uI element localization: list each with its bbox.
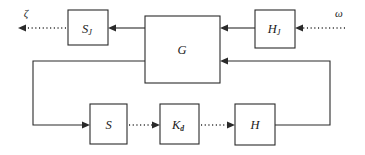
arrow-head-hj-to-g [220, 25, 228, 32]
block-diagram-svg: SJ G HJ S Kd [0, 0, 365, 155]
svg-text:S: S [105, 118, 112, 132]
block-h[interactable]: H [235, 104, 275, 145]
connection-g-to-s [33, 61, 145, 128]
block-hj[interactable]: HJ [255, 10, 295, 48]
block-diagram-canvas: SJ G HJ S Kd [0, 0, 365, 155]
svg-text:G: G [177, 43, 186, 57]
arrow-head-g-to-s [82, 122, 90, 129]
block-hj-subscript: J [277, 28, 281, 37]
connection-g-to-sj [108, 25, 145, 32]
block-s[interactable]: S [90, 104, 127, 144]
block-sj-subscript: J [88, 27, 92, 36]
connection-s-to-kd [129, 122, 160, 129]
signal-label-zeta: ζ [24, 7, 30, 20]
block-h-label: H [249, 118, 260, 132]
svg-text:H: H [249, 118, 260, 132]
arrow-head-kd-to-h [227, 122, 235, 129]
arrow-head-s-to-kd [152, 122, 160, 129]
block-g[interactable]: G [145, 16, 220, 83]
block-s-label: S [105, 118, 112, 132]
block-sj[interactable]: SJ [68, 10, 108, 45]
block-kd-subscript: d [180, 123, 184, 132]
arrow-head-h-to-g [220, 58, 228, 65]
block-g-label: G [177, 43, 186, 57]
signal-label-omega: ω [335, 7, 343, 19]
block-kd[interactable]: Kd [160, 104, 199, 144]
connection-hj-to-g [220, 25, 255, 32]
arrow-head-omega-in [295, 25, 303, 32]
connection-omega-in [295, 25, 345, 32]
connection-kd-to-h [201, 122, 235, 129]
arrow-head-g-to-sj [108, 25, 116, 32]
arrow-head-zeta [18, 25, 26, 32]
connection-zeta-out [18, 25, 66, 32]
